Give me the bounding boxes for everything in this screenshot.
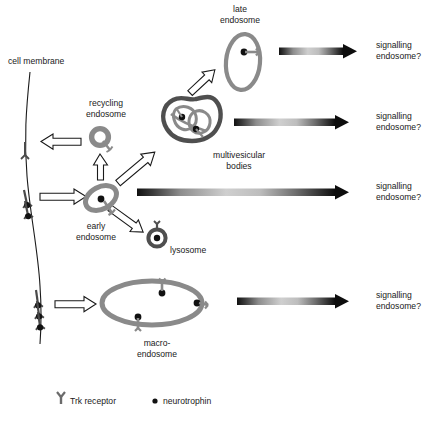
arrow-endocytosis-middle bbox=[40, 189, 86, 204]
neurotrophin-trafficking-diagram: cell membrane recycling endosome early e… bbox=[0, 0, 428, 422]
arrow-endosome-to-multivesicular bbox=[113, 146, 159, 188]
arrow-late-endosome-transport bbox=[279, 44, 357, 59]
label-signalling-endosome-4-line2: endosome? bbox=[376, 301, 421, 312]
neurotrophin-dot-icon bbox=[37, 324, 44, 331]
label-recycling-endosome-line1: recycling bbox=[89, 98, 123, 109]
arrow-recycle-to-membrane bbox=[41, 130, 81, 150]
label-multivesicular-bodies-line2: bodies bbox=[226, 161, 251, 172]
membrane-receptor-group-top bbox=[21, 142, 29, 159]
arrow-early-endosome-transport bbox=[137, 185, 349, 200]
membrane-receptor-group-bottom bbox=[32, 289, 46, 331]
label-signalling-endosome-3-line1: signalling bbox=[376, 181, 412, 192]
organelle-early-endosome bbox=[81, 181, 120, 216]
arrow-macropinocytosis bbox=[55, 297, 96, 312]
label-signalling-endosome-4-line1: signalling bbox=[376, 290, 412, 301]
label-late-endosome-line1: late bbox=[233, 4, 247, 15]
arrow-multivesicular-to-late bbox=[185, 65, 220, 99]
organelle-multivesicular-bodies bbox=[163, 97, 220, 141]
label-late-endosome-line2: endosome bbox=[220, 15, 260, 26]
label-multivesicular-bodies-line1: multivesicular bbox=[213, 150, 265, 161]
membrane-receptor-group-middle bbox=[20, 189, 34, 220]
neurotrophin-dot-icon bbox=[154, 235, 160, 241]
label-macro-endosome-line1: macro- bbox=[144, 338, 171, 349]
label-early-endosome-line1: early bbox=[87, 221, 106, 232]
organelle-lysosome bbox=[148, 221, 165, 247]
label-cell-membrane: cell membrane bbox=[8, 56, 64, 67]
label-macro-endosome-line2: endosome bbox=[137, 349, 177, 360]
label-early-endosome-line2: endosome bbox=[76, 232, 116, 243]
label-signalling-endosome-1-line1: signalling bbox=[376, 40, 412, 51]
legend-trk-receptor-icon bbox=[57, 392, 65, 404]
label-lysosome: lysosome bbox=[170, 245, 206, 256]
label-signalling-endosome-1-line2: endosome? bbox=[376, 51, 421, 62]
organelle-recycling-endosome bbox=[92, 129, 113, 152]
organelle-late-endosome bbox=[224, 33, 263, 92]
legend-label-neurotrophin: neurotrophin bbox=[163, 396, 211, 407]
label-recycling-endosome-line2: endosome bbox=[86, 109, 126, 120]
arrow-multivesicular-transport bbox=[234, 115, 349, 130]
organelle-macro-endosome bbox=[102, 279, 208, 332]
label-signalling-endosome-3-line2: endosome? bbox=[376, 192, 421, 203]
arrow-macro-endosome-transport bbox=[237, 294, 349, 309]
label-signalling-endosome-2-line1: signalling bbox=[376, 111, 412, 122]
label-signalling-endosome-2-line2: endosome? bbox=[376, 122, 421, 133]
legend-neurotrophin-dot-icon bbox=[152, 398, 157, 403]
neurotrophin-dot-icon bbox=[98, 196, 105, 203]
legend-label-trk-receptor: Trk receptor bbox=[70, 396, 116, 407]
arrow-endosome-to-recycling bbox=[94, 154, 108, 180]
